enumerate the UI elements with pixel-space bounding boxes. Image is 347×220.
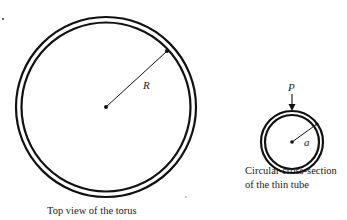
cross-section-caption-line1: Circular cross-section: [245, 164, 337, 177]
radius-a-endpoint: [315, 122, 318, 125]
radius-R-label: R: [142, 79, 150, 91]
stray-speck: [185, 196, 187, 198]
radius-R-endpoint: [165, 49, 169, 53]
force-P-label: P: [287, 81, 295, 93]
torus-caption: Top view of the torus: [47, 204, 137, 217]
cross-section-view: a P: [261, 81, 323, 173]
radius-a-label: a: [304, 136, 310, 148]
cross-section-caption-line2: of the thin tube: [245, 178, 309, 191]
torus-center-dot: [104, 105, 108, 109]
force-P-arrowhead-icon: [289, 104, 296, 111]
torus-top-view: R: [16, 17, 196, 197]
radius-R-line: [106, 52, 166, 107]
tube-center-dot: [290, 140, 294, 144]
stray-speck: [2, 18, 4, 20]
